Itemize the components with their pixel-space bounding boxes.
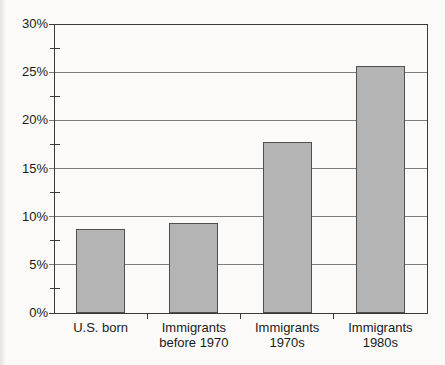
x-axis-tick (333, 314, 334, 319)
x-axis-tick (147, 314, 148, 319)
y-tick-label: 15% (0, 161, 48, 177)
y-tick-label: 20% (0, 112, 48, 128)
bar-chart: 0%5%10%15%20%25%30%U.S. bornImmigrants b… (0, 0, 445, 365)
y-tick-label: 25% (0, 64, 48, 80)
category-label: Immigrants 1980s (320, 321, 440, 350)
page: 0%5%10%15%20%25%30%U.S. bornImmigrants b… (0, 0, 445, 365)
x-axis-tick (240, 314, 241, 319)
y-tick-label: 30% (0, 16, 48, 32)
y-tick-label: 10% (0, 209, 48, 225)
y-tick-label: 5% (0, 257, 48, 273)
plot-frame (54, 24, 428, 314)
y-tick-label: 0% (0, 305, 48, 321)
